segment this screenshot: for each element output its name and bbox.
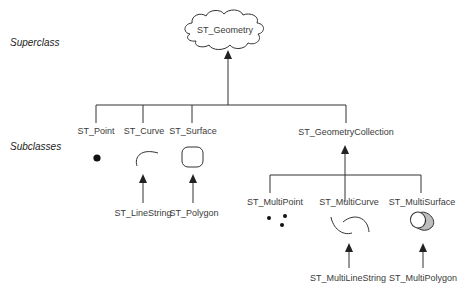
multisurface-icon [408, 210, 434, 230]
multipoint-icon [267, 214, 287, 227]
node-st-polygon: ST_Polygon [169, 208, 218, 218]
subclasses-label: Subclasses [10, 141, 61, 152]
node-st-curve: ST_Curve [124, 126, 165, 136]
arrow-head-icon [345, 243, 353, 252]
curve-icon [136, 152, 158, 166]
node-st-linestring: ST_LineString [114, 208, 171, 218]
node-st-multipolygon: ST_MultiPolygon [389, 273, 457, 283]
node-st-multipoint: ST_MultiPoint [247, 197, 304, 207]
class-hierarchy-diagram: Superclass Subclasses ST_Geometry ST_Poi… [0, 0, 473, 292]
point-icon [93, 154, 100, 161]
surface-icon [182, 147, 203, 167]
node-st-surface: ST_Surface [169, 126, 217, 136]
node-st-multisurface: ST_MultiSurface [389, 197, 456, 207]
arrow-head-icon [139, 174, 147, 183]
arrow-head-icon [189, 174, 197, 183]
superclass-label: Superclass [10, 37, 59, 48]
node-st-multilinestring: ST_MultiLineString [310, 273, 386, 283]
node-st-geometry-collection: ST_GeometryCollection [298, 127, 394, 137]
node-st-multicurve: ST_MultiCurve [319, 197, 379, 207]
node-st-point: ST_Point [77, 126, 115, 136]
root-node: ST_Geometry [185, 10, 264, 50]
multicurve-icon [331, 217, 369, 234]
arrow-head-icon [419, 243, 427, 252]
root-node-label: ST_Geometry [197, 25, 254, 35]
arrow-head-icon [224, 50, 232, 59]
arrow-head-icon [341, 145, 349, 154]
